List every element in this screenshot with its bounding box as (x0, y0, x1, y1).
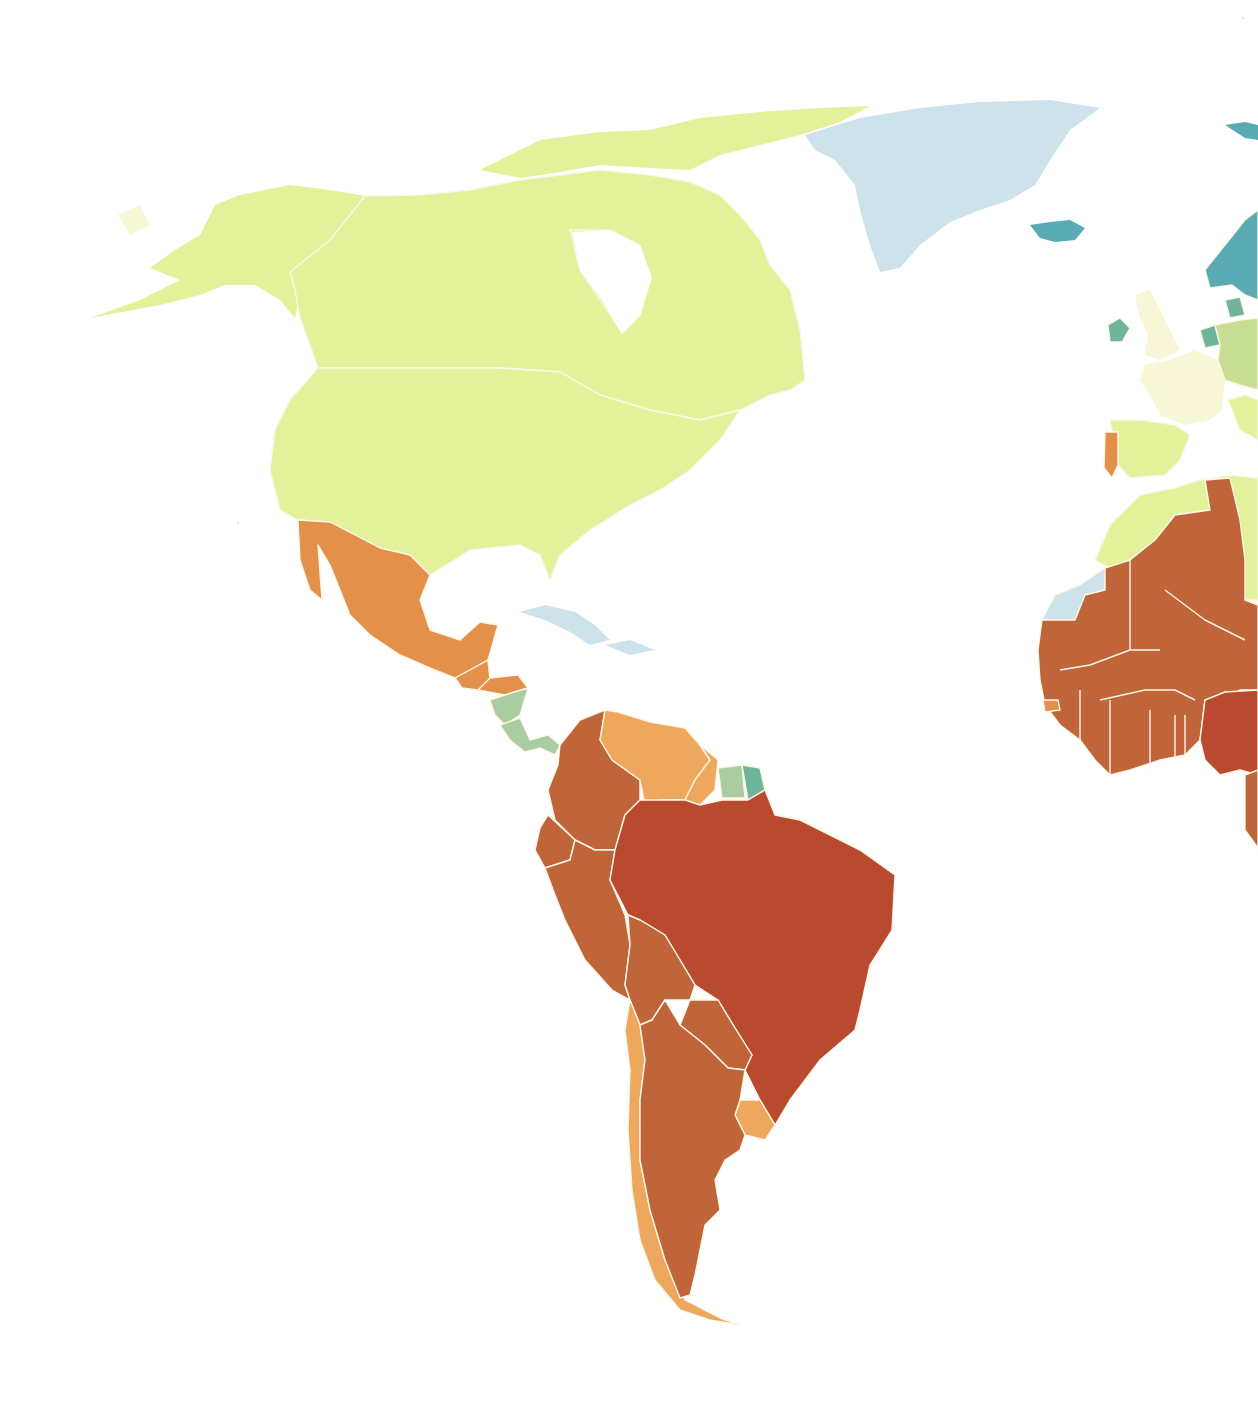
region-cameroon[interactable] (1245, 770, 1258, 848)
region-italy[interactable] (1228, 395, 1258, 440)
region-norway-sweden[interactable] (1205, 210, 1258, 300)
region-nigeria[interactable] (1200, 690, 1258, 775)
choropleth-map (0, 0, 1258, 1416)
region-costa-rica-panama[interactable] (500, 718, 560, 755)
region-uk[interactable] (1135, 290, 1180, 360)
scan-speck (237, 522, 239, 524)
region-caribbean (520, 605, 655, 655)
region-ireland[interactable] (1108, 318, 1130, 342)
region-alaska-west-tip (118, 205, 150, 235)
region-iceland[interactable] (1030, 220, 1085, 242)
region-spain[interactable] (1110, 420, 1190, 478)
region-suriname[interactable] (718, 765, 745, 798)
scan-speck (1242, 17, 1244, 19)
region-france[interactable] (1140, 350, 1225, 425)
region-guinea-bissau[interactable] (1043, 700, 1060, 712)
region-portugal[interactable] (1104, 432, 1118, 478)
region-greenland[interactable] (805, 100, 1100, 272)
region-svalbard[interactable] (1225, 122, 1258, 140)
